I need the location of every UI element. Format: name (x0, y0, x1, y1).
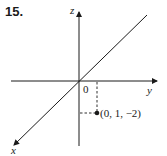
coordinate-diagram: 15. z y x 0 (0, 1, −2) (0, 0, 167, 156)
y-axis-label: y (147, 85, 152, 96)
x-axis (14, 15, 147, 145)
axes-svg (0, 0, 167, 156)
x-axis-label: x (11, 145, 16, 156)
point-marker (95, 111, 100, 116)
problem-number: 15. (5, 5, 23, 18)
origin-label: 0 (83, 84, 89, 95)
point-label: (0, 1, −2) (100, 108, 141, 119)
z-axis-label: z (70, 5, 74, 16)
